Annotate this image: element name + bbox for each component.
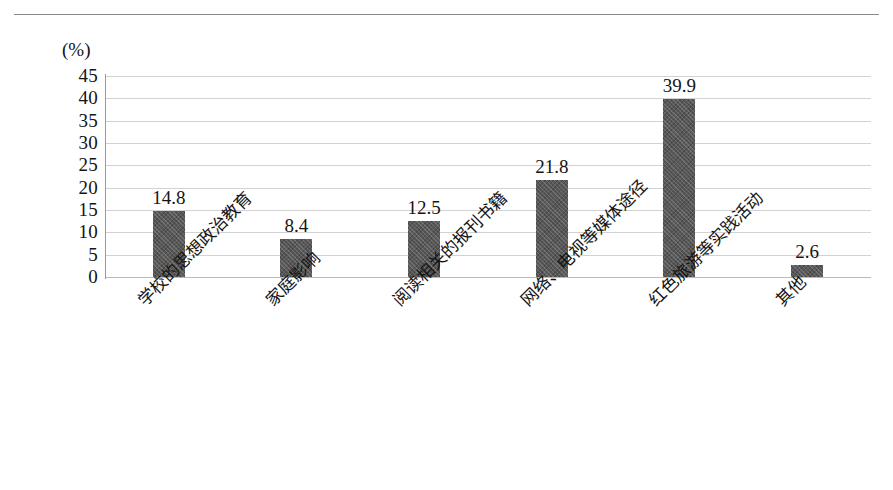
bar-value-label: 12.5 bbox=[408, 198, 441, 218]
top-divider-rule bbox=[14, 14, 879, 15]
bar-slot: 14.8 bbox=[105, 76, 233, 277]
bar-value-label: 39.9 bbox=[663, 76, 696, 96]
gridline-0 bbox=[105, 277, 871, 278]
bar-value-label: 14.8 bbox=[152, 188, 185, 208]
bar-slot: 21.8 bbox=[488, 76, 616, 277]
y-tick-label-45: 45 bbox=[52, 66, 98, 85]
y-tick-label-10: 10 bbox=[52, 222, 98, 241]
y-axis-tick-labels: 454035302520151050 bbox=[46, 76, 98, 277]
y-tick-label-35: 35 bbox=[52, 111, 98, 130]
y-tick-label-5: 5 bbox=[52, 245, 98, 264]
y-tick-label-25: 25 bbox=[52, 155, 98, 174]
bar-value-label: 8.4 bbox=[285, 216, 309, 236]
y-tick-label-0: 0 bbox=[52, 267, 98, 286]
bar-value-label: 21.8 bbox=[535, 157, 568, 177]
bar-slot: 8.4 bbox=[233, 76, 361, 277]
chart-figure: (%) 454035302520151050 14.88.412.521.839… bbox=[0, 0, 893, 490]
y-tick-label-20: 20 bbox=[52, 178, 98, 197]
bar-slot: 12.5 bbox=[360, 76, 488, 277]
bar-series: 14.88.412.521.839.92.6 bbox=[105, 76, 871, 277]
bar-value-label: 2.6 bbox=[795, 242, 819, 262]
bar-slot: 2.6 bbox=[743, 76, 871, 277]
y-tick-label-15: 15 bbox=[52, 200, 98, 219]
y-tick-label-40: 40 bbox=[52, 88, 98, 107]
y-tick-label-30: 30 bbox=[52, 133, 98, 152]
y-axis-unit-label: (%) bbox=[62, 40, 90, 60]
